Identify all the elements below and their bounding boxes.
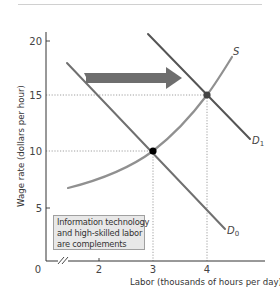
x-axis-title: Labor (thousands of hours per day) xyxy=(130,277,280,287)
y-tick-label: 20 xyxy=(29,36,42,47)
axis-break-icon xyxy=(58,256,68,265)
x-tick-label: 2 xyxy=(96,264,102,275)
annotation-line: and high-skilled labor xyxy=(57,228,141,239)
origin-label: 0 xyxy=(35,264,41,275)
annotation-box: Information technology and high-skilled … xyxy=(53,215,145,250)
y-tick-label: 5 xyxy=(36,203,42,214)
demand-shift-arrow-icon xyxy=(84,67,182,89)
annotation-line: Information technology xyxy=(57,217,141,228)
d0-label: D0 xyxy=(227,225,239,238)
equilibrium-point-initial xyxy=(149,147,156,154)
equilibrium-point-new xyxy=(203,91,210,98)
labor-market-chart: 20 15 10 5 0 2 3 4 Labor (thousands of h… xyxy=(0,0,280,296)
annotation-line: are complements xyxy=(57,239,141,250)
x-tick-label: 4 xyxy=(204,264,210,275)
d1-label: D1 xyxy=(252,135,264,148)
x-tick-label: 3 xyxy=(150,264,156,275)
supply-label: S xyxy=(233,46,240,57)
y-tick-label: 15 xyxy=(29,90,42,101)
y-tick-label: 10 xyxy=(29,146,42,157)
y-axis-title: Wage rate (dollars per hour) xyxy=(16,85,26,207)
